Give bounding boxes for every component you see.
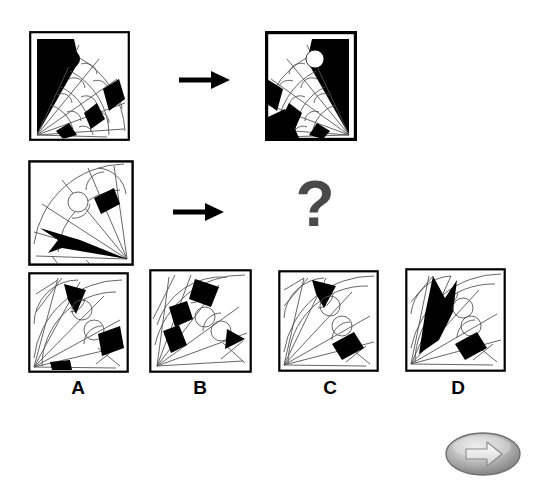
option-b-panel[interactable]: [149, 269, 252, 373]
next-button-icon: [444, 431, 522, 477]
arrow-right-icon: [172, 200, 228, 224]
row2-source-panel[interactable]: [28, 160, 134, 266]
question-mark: ?: [285, 172, 345, 236]
next-button[interactable]: [444, 431, 522, 477]
option-b-figure: [149, 269, 252, 373]
option-d-panel[interactable]: [405, 268, 506, 372]
option-d-label: D: [438, 378, 478, 397]
row1-result-panel[interactable]: [265, 31, 357, 141]
row1-result-figure: [265, 31, 357, 141]
row2-source-figure: [28, 160, 134, 266]
row1-source-panel[interactable]: [29, 31, 130, 141]
option-b-label: B: [180, 378, 220, 397]
option-a-panel[interactable]: [28, 272, 129, 373]
option-d-figure: [405, 268, 506, 372]
option-c-label: C: [310, 378, 350, 397]
option-c-figure: [278, 270, 379, 372]
option-a-figure: [28, 272, 129, 373]
option-c-panel[interactable]: [278, 270, 379, 372]
row2-transform-arrow: [172, 200, 228, 224]
row1-transform-arrow: [178, 68, 234, 92]
puzzle-root: ?: [0, 0, 541, 495]
option-a-label: A: [58, 378, 98, 397]
arrow-right-icon: [178, 68, 234, 92]
row1-source-figure: [29, 31, 130, 141]
